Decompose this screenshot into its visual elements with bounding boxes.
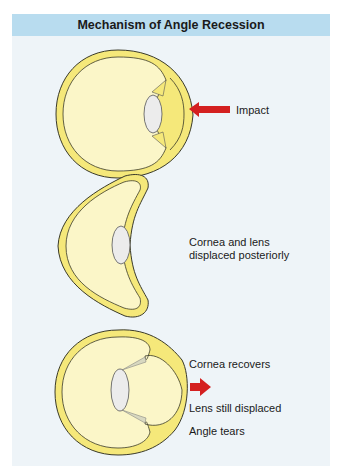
eye-normal bbox=[56, 50, 193, 178]
cornea-recovers-text: Cornea recovers bbox=[189, 358, 270, 370]
eye-deformed bbox=[58, 175, 148, 318]
eye-deformed-lens bbox=[112, 226, 130, 264]
displaced-text-line1: Cornea and lens bbox=[189, 236, 289, 249]
angle-tears-label: Angle tears bbox=[189, 425, 245, 438]
eye-recovered-lens bbox=[111, 369, 129, 411]
displaced-text-line2: displaced posteriorly bbox=[189, 249, 289, 262]
red-arrow-left-icon bbox=[189, 102, 230, 117]
lens-displaced-label: Lens still displaced bbox=[189, 402, 281, 415]
angle-tears-text: Angle tears bbox=[189, 425, 245, 437]
lens-displaced-text: Lens still displaced bbox=[189, 402, 281, 414]
red-arrow-right-icon bbox=[190, 378, 211, 396]
displaced-label: Cornea and lens displaced posteriorly bbox=[189, 236, 289, 262]
diagram-canvas bbox=[0, 0, 343, 471]
cornea-recovers-label: Cornea recovers bbox=[189, 358, 270, 371]
impact-text: Impact bbox=[236, 104, 269, 116]
impact-label: Impact bbox=[236, 104, 269, 117]
eye-recovered bbox=[55, 330, 187, 455]
eye-normal-lens bbox=[144, 95, 162, 133]
